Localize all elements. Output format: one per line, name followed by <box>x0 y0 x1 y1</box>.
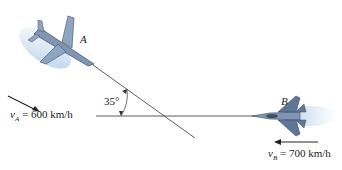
velocity-arrow-b <box>274 139 318 145</box>
angle-label: 35° <box>104 95 119 107</box>
diagram-canvas <box>0 0 342 170</box>
fighter-jet-b-icon <box>252 96 336 136</box>
velocity-b-label: vB = 700 km/h <box>268 147 331 162</box>
plane-b-label: B <box>281 95 288 107</box>
velocity-a-label: vA = 600 km/h <box>10 108 73 123</box>
airliner-a-icon <box>12 16 94 77</box>
plane-a-label: A <box>80 33 87 45</box>
angle-arc <box>119 89 127 116</box>
